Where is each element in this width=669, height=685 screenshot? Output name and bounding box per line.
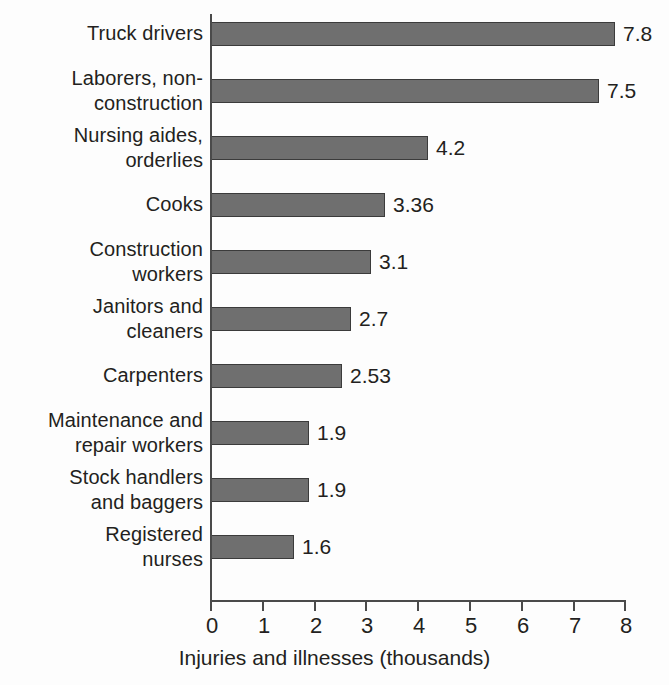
bar [211, 421, 309, 445]
bar-value-label: 1.9 [317, 478, 346, 502]
bar-value-label: 1.9 [317, 421, 346, 445]
x-axis-tick [314, 602, 316, 611]
bar [211, 136, 428, 160]
bar-value-label: 3.36 [393, 193, 434, 217]
x-axis-tick-label: 6 [503, 612, 543, 640]
x-axis-tick [210, 602, 212, 611]
x-axis-tick [573, 602, 575, 611]
bar-chart: Truck drivers Laborers, non- constructio… [0, 0, 669, 685]
x-axis-tick-label: 2 [296, 612, 336, 640]
bar-value-label: 4.2 [436, 136, 465, 160]
bar [211, 193, 385, 217]
plot-area: Truck drivers Laborers, non- constructio… [0, 0, 669, 685]
bar-value-label: 7.8 [623, 22, 652, 46]
bar [211, 79, 599, 103]
category-label: Janitors and cleaners [3, 294, 203, 344]
x-axis-tick-label: 1 [244, 612, 284, 640]
category-label: Laborers, non- construction [3, 66, 203, 116]
bar [211, 535, 294, 559]
category-label: Registered nurses [3, 522, 203, 572]
bar [211, 22, 615, 46]
x-axis-tick [469, 602, 471, 611]
x-axis-tick [417, 602, 419, 611]
x-axis-tick-label: 8 [606, 612, 646, 640]
x-axis-tick [624, 602, 626, 611]
x-axis-tick-label: 4 [399, 612, 439, 640]
category-label: Cooks [3, 192, 203, 217]
x-axis-tick [262, 602, 264, 611]
y-axis-line [210, 14, 212, 601]
category-label: Stock handlers and baggers [3, 465, 203, 515]
x-axis-tick [521, 602, 523, 611]
bar [211, 478, 309, 502]
x-axis-tick [365, 602, 367, 611]
bar [211, 307, 351, 331]
x-axis-tick-label: 3 [347, 612, 387, 640]
category-label: Nursing aides, orderlies [3, 123, 203, 173]
bar [211, 364, 342, 388]
bar-value-label: 1.6 [302, 535, 331, 559]
category-label: Maintenance and repair workers [3, 408, 203, 458]
category-label: Construction workers [3, 237, 203, 287]
bar-value-label: 3.1 [379, 250, 408, 274]
category-label: Carpenters [3, 363, 203, 388]
bar-value-label: 2.7 [359, 307, 388, 331]
bar [211, 250, 371, 274]
x-axis-tick-label: 0 [192, 612, 232, 640]
x-axis-tick-label: 5 [451, 612, 491, 640]
bar-value-label: 2.53 [350, 364, 391, 388]
x-axis-title: Injuries and illnesses (thousands) [0, 645, 669, 671]
bar-value-label: 7.5 [607, 79, 636, 103]
x-axis-tick-label: 7 [555, 612, 595, 640]
category-label: Truck drivers [3, 21, 203, 46]
